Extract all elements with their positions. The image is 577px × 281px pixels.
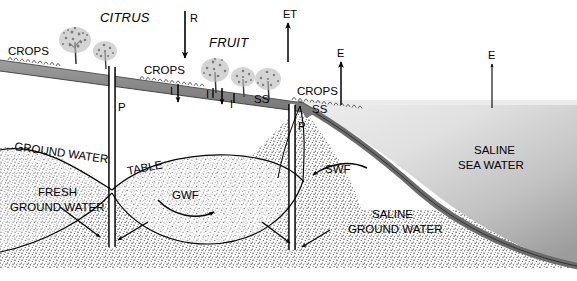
label-crops-mid: CROPS: [144, 64, 185, 76]
tree-citrus-2: [93, 41, 117, 69]
label-infiltration-2: I: [206, 88, 209, 100]
label-saline-sea-water-1: SALINE: [474, 144, 515, 156]
pumping-well-1[interactable]: [109, 66, 115, 247]
label-saline-sea-water-2: SEA WATER: [458, 159, 524, 171]
cross-section-svg: CROPS CITRUS CROPS FRUIT CROPS R ET E E …: [0, 0, 577, 281]
label-pumping-well-2: P: [298, 120, 306, 132]
diagram-canvas: CROPS CITRUS CROPS FRUIT CROPS R ET E E …: [0, 0, 577, 281]
label-salt-water-flow: SWF: [325, 163, 351, 175]
label-seepage-mid: SS: [254, 93, 270, 105]
label-ground-water-flow: GWF: [172, 189, 199, 201]
label-fruit: FRUIT: [209, 35, 249, 50]
label-saline-ground-water-2: GROUND WATER: [348, 223, 443, 235]
tree-citrus-1: [59, 27, 91, 64]
label-infiltration-3: I: [230, 98, 233, 110]
label-saline-ground-water-1: SALINE: [372, 208, 413, 220]
tree-fruit-2: [231, 67, 255, 97]
label-fresh-ground-water-1: FRESH: [38, 186, 77, 198]
label-evaporation-left: E: [337, 47, 344, 59]
label-seepage-right: SS: [312, 103, 328, 115]
label-evapotranspiration: ET: [283, 8, 297, 20]
label-citrus: CITRUS: [100, 10, 150, 25]
label-pumping-well-1: P: [118, 101, 126, 113]
label-crops-right: CROPS: [297, 85, 338, 97]
label-infiltration-1: I: [170, 85, 173, 97]
label-recharge: R: [190, 12, 198, 24]
label-crops-left: CROPS: [8, 45, 49, 57]
label-fresh-ground-water-2: GROUND WATER: [10, 201, 105, 213]
label-evaporation-right: E: [488, 49, 495, 61]
